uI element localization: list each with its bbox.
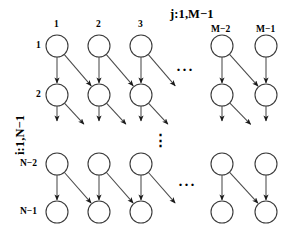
row-label-n-minus-1: N−1 bbox=[20, 207, 37, 217]
graph-node bbox=[211, 84, 233, 106]
graph-node bbox=[88, 201, 110, 223]
edge-diagonal bbox=[106, 103, 125, 124]
edge-diagonal bbox=[148, 54, 175, 86]
column-label-m-minus-1: M−1 bbox=[256, 25, 275, 35]
column-label-1: 1 bbox=[54, 20, 59, 30]
edge-diagonal bbox=[148, 103, 167, 124]
graph-node bbox=[88, 84, 110, 106]
lattice-graph bbox=[0, 0, 294, 232]
graph-node bbox=[130, 153, 152, 175]
edge-diagonal bbox=[148, 172, 175, 203]
column-label-m-minus-2: M−2 bbox=[211, 25, 230, 35]
edge-diagonal bbox=[64, 172, 91, 203]
graph-node bbox=[88, 35, 110, 57]
column-label-2: 2 bbox=[96, 20, 101, 30]
edge-diagonal bbox=[106, 172, 133, 203]
graph-node bbox=[46, 153, 68, 175]
graph-node bbox=[46, 35, 68, 57]
vertical-ellipsis-middle: ⋮ bbox=[153, 133, 168, 148]
row-label-2: 2 bbox=[36, 90, 41, 100]
diagram-canvas: j:1,M−1 i:1,N−1 1 2 3 M−2 M−1 1 2 N−2 N−… bbox=[0, 0, 294, 232]
edge-diagonal bbox=[106, 54, 133, 86]
graph-node bbox=[211, 35, 233, 57]
row-label-n-minus-2: N−2 bbox=[20, 159, 37, 169]
nodes-layer bbox=[46, 35, 277, 223]
graph-node bbox=[130, 201, 152, 223]
graph-node bbox=[211, 153, 233, 175]
graph-node bbox=[211, 201, 233, 223]
edge-diagonal bbox=[230, 103, 251, 125]
edge-diagonal bbox=[64, 103, 83, 124]
graph-node bbox=[46, 201, 68, 223]
edge-diagonal bbox=[64, 54, 91, 86]
graph-node bbox=[255, 84, 277, 106]
graph-node bbox=[130, 84, 152, 106]
row-label-1: 1 bbox=[36, 41, 41, 51]
graph-node bbox=[130, 35, 152, 57]
edges-layer bbox=[57, 54, 266, 203]
top-axis-label: j:1,M−1 bbox=[170, 8, 214, 21]
column-label-3: 3 bbox=[138, 20, 143, 30]
graph-node bbox=[88, 153, 110, 175]
graph-node bbox=[255, 201, 277, 223]
horizontal-ellipsis-top: ··· bbox=[176, 63, 194, 78]
edge-diagonal bbox=[229, 172, 257, 203]
horizontal-ellipsis-bottom: ··· bbox=[178, 178, 196, 193]
graph-node bbox=[255, 153, 277, 175]
graph-node bbox=[255, 35, 277, 57]
edge-diagonal bbox=[229, 54, 258, 86]
graph-node bbox=[46, 84, 68, 106]
left-axis-label: i:1,N−1 bbox=[14, 115, 27, 155]
